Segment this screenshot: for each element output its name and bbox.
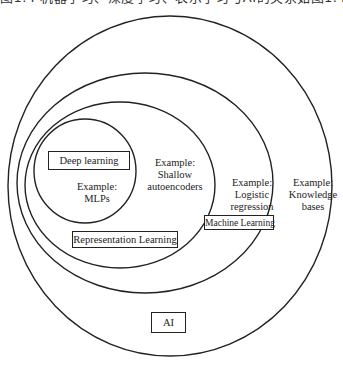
dl-example-line-1: Example:	[72, 181, 122, 193]
ml-example-line-2: Logistic	[222, 189, 282, 201]
ai-example-line-2: Knowledge	[288, 189, 338, 201]
deep-learning-example: Example: MLPs	[72, 181, 122, 205]
machine-learning-example: Example: Logistic regression	[222, 177, 282, 213]
representation-learning-example: Example: Shallow autoencoders	[140, 157, 210, 193]
ai-example-line-1: Example:	[288, 177, 338, 189]
representation-learning-label: Representation Learning	[72, 231, 178, 248]
representation-learning-text: Representation Learning	[73, 234, 177, 245]
rl-example-line-2: Shallow	[140, 169, 210, 181]
dl-circle	[34, 119, 136, 223]
ai-label: AI	[151, 312, 186, 333]
machine-learning-text: Machine Learning	[205, 218, 275, 228]
ai-example-line-3: bases	[288, 201, 338, 213]
ml-example-line-1: Example:	[222, 177, 282, 189]
rl-example-line-1: Example:	[140, 157, 210, 169]
dl-example-line-2: MLPs	[72, 193, 122, 205]
deep-learning-text: Deep learning	[59, 155, 118, 166]
machine-learning-label: Machine Learning	[204, 215, 274, 230]
ai-text: AI	[163, 317, 174, 328]
ai-example: Example: Knowledge bases	[288, 177, 338, 213]
rl-example-line-3: autoencoders	[140, 181, 210, 193]
deep-learning-label: Deep learning	[48, 151, 130, 170]
ml-example-line-3: regression	[222, 201, 282, 213]
